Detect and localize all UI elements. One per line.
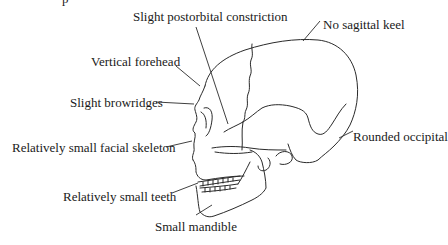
orbit bbox=[204, 108, 212, 136]
label-small-mandible: Small mandible bbox=[155, 220, 237, 234]
label-postorbital-constriction: Slight postorbital constriction bbox=[133, 10, 288, 24]
coronal-suture bbox=[243, 44, 252, 122]
mandible-outline bbox=[196, 150, 266, 217]
label-small-teeth: Relatively small teeth bbox=[63, 190, 176, 204]
label-rounded-occipital: Rounded occipital bbox=[353, 130, 448, 144]
squamosal-suture bbox=[243, 104, 346, 134]
zygomatic-arch bbox=[212, 147, 286, 151]
forehead-outline bbox=[192, 86, 205, 160]
label-slight-browridges: Slight browridges bbox=[70, 96, 163, 110]
label-vertical-forehead: Vertical forehead bbox=[91, 55, 180, 69]
leader-postorbital bbox=[196, 27, 228, 124]
mastoid bbox=[276, 152, 292, 165]
leader-forehead bbox=[176, 66, 200, 86]
skull-diagram: p bbox=[0, 0, 448, 245]
skull-illustration bbox=[0, 0, 448, 245]
label-small-facial-skeleton: Relatively small facial skeleton bbox=[12, 141, 176, 155]
leader-sagittal bbox=[303, 21, 320, 41]
label-no-sagittal-keel: No sagittal keel bbox=[323, 18, 405, 32]
cranium-outline bbox=[205, 39, 358, 162]
